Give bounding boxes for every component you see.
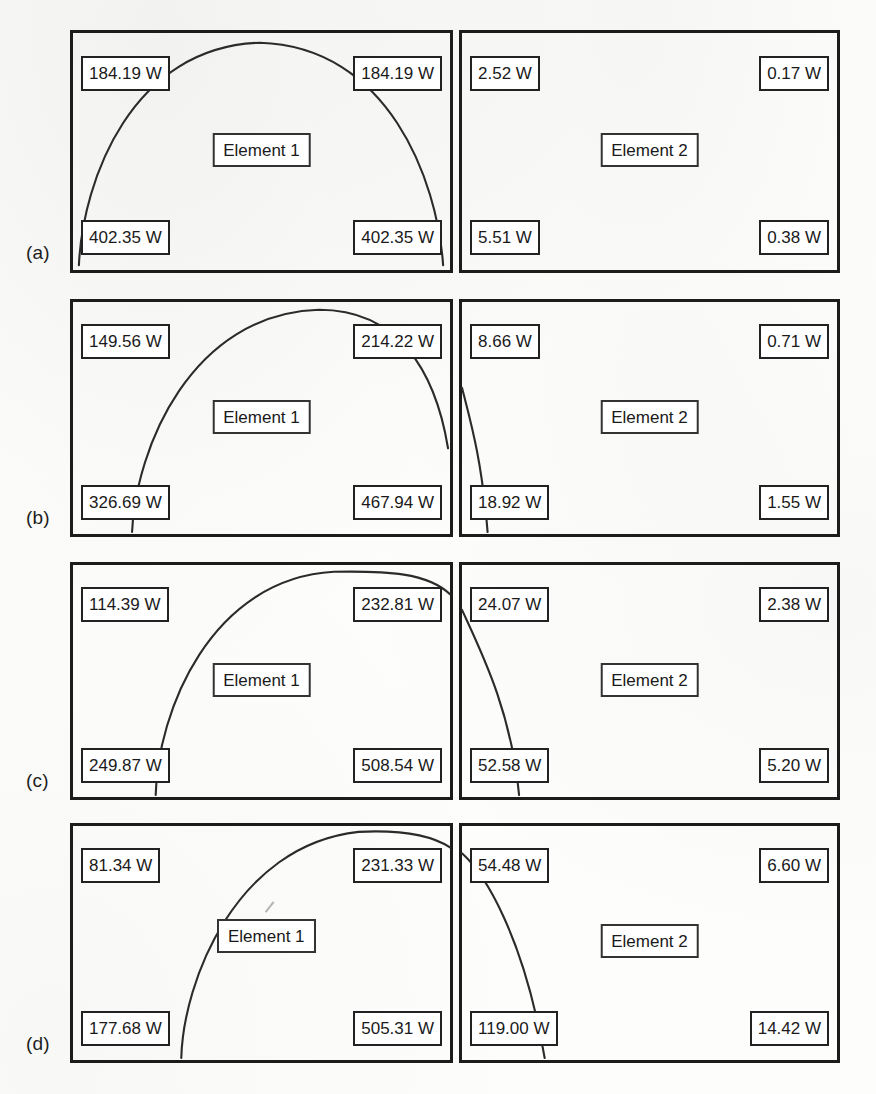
value-c-e2-bottom-left: 52.58 W bbox=[470, 748, 549, 783]
value-d-e1-top-left: 81.34 W bbox=[81, 848, 160, 883]
value-c-e2-bottom-right: 5.20 W bbox=[759, 748, 829, 783]
stray-pencil-mark bbox=[265, 901, 274, 912]
element-label-d-2: Element 2 bbox=[600, 924, 699, 958]
panel-a-element-2: 2.52 W 0.17 W 5.51 W 0.38 W Element 2 bbox=[459, 30, 840, 273]
value-d-e2-top-left: 54.48 W bbox=[470, 848, 549, 883]
value-d-e2-bottom-right: 14.42 W bbox=[750, 1011, 829, 1046]
figure-row-b: (b) 149.56 W 214.22 W 326.69 W 467.94 W … bbox=[0, 299, 876, 539]
value-c-e2-top-left: 24.07 W bbox=[470, 587, 549, 622]
element-label-c-1: Element 1 bbox=[212, 663, 311, 697]
row-label-d: (d) bbox=[26, 1033, 50, 1055]
value-c-e1-top-right: 232.81 W bbox=[353, 587, 442, 622]
value-a-e1-top-right: 184.19 W bbox=[353, 56, 442, 91]
element-label-d-1: Element 1 bbox=[217, 919, 316, 953]
value-a-e1-top-left: 184.19 W bbox=[81, 56, 170, 91]
value-c-e1-bottom-right: 508.54 W bbox=[353, 748, 442, 783]
value-b-e1-top-left: 149.56 W bbox=[81, 324, 170, 359]
value-c-e1-bottom-left: 249.87 W bbox=[81, 748, 170, 783]
figure-row-c: (c) 114.39 W 232.81 W 249.87 W 508.54 W … bbox=[0, 562, 876, 802]
value-d-e1-top-right: 231.33 W bbox=[353, 848, 442, 883]
value-a-e1-bottom-right: 402.35 W bbox=[353, 220, 442, 255]
value-b-e2-top-right: 0.71 W bbox=[759, 324, 829, 359]
value-b-e1-bottom-right: 467.94 W bbox=[353, 485, 442, 520]
figure-row-a: (a) 184.19 W 184.19 W 402.35 W 402.35 W … bbox=[0, 30, 876, 275]
panel-b-element-2: 8.66 W 0.71 W 18.92 W 1.55 W Element 2 bbox=[459, 299, 840, 537]
panel-c-element-1: 114.39 W 232.81 W 249.87 W 508.54 W Elem… bbox=[70, 562, 453, 800]
panel-d-element-2: 54.48 W 6.60 W 119.00 W 14.42 W Element … bbox=[459, 823, 840, 1063]
row-label-b: (b) bbox=[26, 507, 50, 529]
value-b-e2-top-left: 8.66 W bbox=[470, 324, 540, 359]
element-label-b-1: Element 1 bbox=[212, 400, 311, 434]
value-a-e2-bottom-left: 5.51 W bbox=[470, 220, 540, 255]
panel-d-element-1: 81.34 W 231.33 W 177.68 W 505.31 W Eleme… bbox=[70, 823, 453, 1063]
element-label-a-1: Element 1 bbox=[212, 133, 311, 167]
value-a-e2-top-right: 0.17 W bbox=[759, 56, 829, 91]
value-b-e2-bottom-right: 1.55 W bbox=[759, 485, 829, 520]
element-label-c-2: Element 2 bbox=[600, 663, 699, 697]
value-b-e1-bottom-left: 326.69 W bbox=[81, 485, 170, 520]
element-label-b-2: Element 2 bbox=[600, 400, 699, 434]
panel-a-element-1: 184.19 W 184.19 W 402.35 W 402.35 W Elem… bbox=[70, 30, 453, 273]
value-b-e2-bottom-left: 18.92 W bbox=[470, 485, 549, 520]
panel-b-element-1: 149.56 W 214.22 W 326.69 W 467.94 W Elem… bbox=[70, 299, 453, 537]
value-d-e1-bottom-left: 177.68 W bbox=[81, 1011, 170, 1046]
value-c-e2-top-right: 2.38 W bbox=[759, 587, 829, 622]
value-b-e1-top-right: 214.22 W bbox=[353, 324, 442, 359]
row-label-a: (a) bbox=[26, 242, 50, 264]
power-distribution-figure: (a) 184.19 W 184.19 W 402.35 W 402.35 W … bbox=[0, 0, 876, 1094]
value-a-e2-top-left: 2.52 W bbox=[470, 56, 540, 91]
value-d-e2-top-right: 6.60 W bbox=[759, 848, 829, 883]
value-d-e1-bottom-right: 505.31 W bbox=[353, 1011, 442, 1046]
value-a-e2-bottom-right: 0.38 W bbox=[759, 220, 829, 255]
value-a-e1-bottom-left: 402.35 W bbox=[81, 220, 170, 255]
panel-c-element-2: 24.07 W 2.38 W 52.58 W 5.20 W Element 2 bbox=[459, 562, 840, 800]
value-d-e2-bottom-left: 119.00 W bbox=[470, 1011, 558, 1046]
element-label-a-2: Element 2 bbox=[600, 133, 699, 167]
value-c-e1-top-left: 114.39 W bbox=[81, 587, 169, 622]
row-label-c: (c) bbox=[26, 770, 49, 792]
figure-row-d: (d) 81.34 W 231.33 W 177.68 W 505.31 W E… bbox=[0, 823, 876, 1065]
